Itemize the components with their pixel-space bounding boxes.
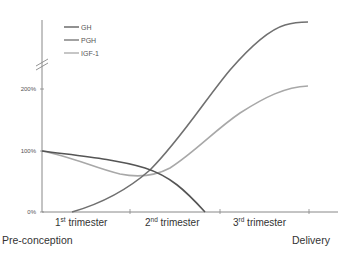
chart: 200% 100% 0% 1st trimester 2nd trimester… bbox=[0, 0, 355, 253]
x-label-1st-trimester: 1st trimester bbox=[55, 216, 108, 228]
pre-conception-label: Pre-conception bbox=[2, 234, 73, 246]
legend-label-pgh: PGH bbox=[81, 37, 96, 44]
legend: GH PGH IGF-1 bbox=[64, 24, 99, 57]
legend-label-igf1: IGF-1 bbox=[81, 50, 99, 57]
delivery-label: Delivery bbox=[292, 234, 331, 246]
legend-label-gh: GH bbox=[81, 24, 92, 31]
x-label-3rd-trimester: 3rd trimester bbox=[233, 216, 287, 228]
series-line-pgh bbox=[72, 22, 308, 212]
y-tick-label-100: 100% bbox=[21, 148, 37, 154]
x-label-2nd-trimester: 2nd trimester bbox=[145, 216, 200, 228]
y-tick-label-0: 0% bbox=[27, 209, 36, 215]
series-line-igf1 bbox=[42, 86, 308, 176]
y-tick-label-200: 200% bbox=[21, 86, 37, 92]
